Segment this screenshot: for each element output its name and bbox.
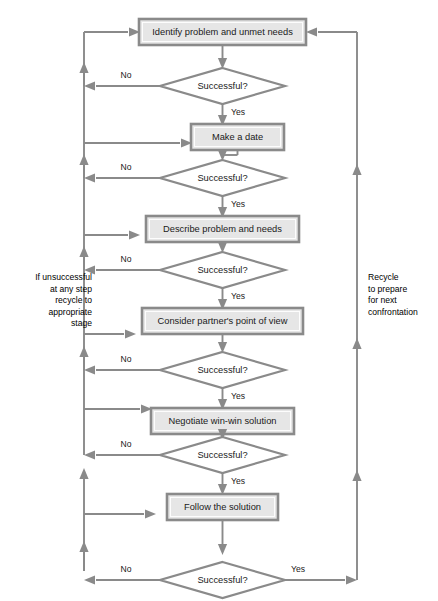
left-note-line-1: If unsuccessful xyxy=(6,272,92,284)
right-note-line-4: confrontation xyxy=(368,307,436,319)
node-label: Follow the solution xyxy=(184,502,261,512)
edge-label-no: No xyxy=(121,254,132,264)
edge-decision5-no: No xyxy=(84,439,160,460)
edge-decision6-no: No xyxy=(84,564,160,585)
node-follow-solution[interactable]: Follow the solution xyxy=(167,494,278,520)
node-label: Consider partner's point of view xyxy=(158,316,288,326)
edge-label-no: No xyxy=(121,354,132,364)
node-label: Negotiate win-win solution xyxy=(168,416,276,426)
node-decision-1[interactable]: Successful? xyxy=(160,68,285,104)
connector-step1-decision1 xyxy=(218,45,227,69)
node-describe-problem[interactable]: Describe problem and needs xyxy=(146,216,299,242)
edge-label-no: No xyxy=(121,564,132,574)
right-recycle-rail xyxy=(285,27,362,584)
node-label: Successful? xyxy=(197,265,247,275)
node-label: Make a date xyxy=(212,132,263,142)
node-identify-problem[interactable]: Identify problem and unmet needs xyxy=(139,19,306,45)
node-decision-2[interactable]: Successful? xyxy=(160,160,285,196)
node-decision-3[interactable]: Successful? xyxy=(160,252,285,288)
node-decision-6[interactable]: Successful? xyxy=(160,562,285,598)
node-label: Successful? xyxy=(197,173,247,183)
edge-label-no: No xyxy=(121,162,132,172)
edge-decision5-yes: Yes xyxy=(218,473,245,495)
edge-decision3-no: No xyxy=(84,254,160,275)
edge-label-yes: Yes xyxy=(231,476,245,486)
node-label: Identify problem and unmet needs xyxy=(152,27,293,37)
edge-label-yes: Yes xyxy=(231,391,245,401)
node-label: Successful? xyxy=(197,450,247,460)
edge-label-yes: Yes xyxy=(291,564,305,574)
edge-label-no: No xyxy=(121,70,132,80)
right-note-line-2: to prepare xyxy=(368,284,436,296)
node-consider-partner-view[interactable]: Consider partner's point of view xyxy=(142,308,303,334)
left-recycle-note: If unsuccessful at any step recycle to a… xyxy=(6,272,92,330)
edge-label-no: No xyxy=(121,439,132,449)
edge-label-yes: Yes xyxy=(231,107,245,117)
node-make-a-date[interactable]: Make a date xyxy=(191,124,284,150)
edge-decision1-yes: Yes xyxy=(218,104,245,126)
edge-decision4-no: No xyxy=(84,354,160,375)
left-note-line-2: at any step xyxy=(6,284,92,296)
flowchart-diagram: Identify problem and unmet needs Success… xyxy=(0,0,438,601)
node-label: Describe problem and needs xyxy=(163,224,282,234)
right-recycle-note: Recycle to prepare for next confrontatio… xyxy=(368,272,436,318)
node-label: Successful? xyxy=(197,575,247,585)
edge-decision6-yes: Yes xyxy=(291,564,305,574)
node-decision-4[interactable]: Successful? xyxy=(160,352,285,388)
right-note-line-1: Recycle xyxy=(368,272,436,284)
left-note-line-3: recycle to xyxy=(6,295,92,307)
edge-decision2-yes: Yes xyxy=(218,196,245,218)
node-label: Successful? xyxy=(197,81,247,91)
edge-decision1-no: No xyxy=(84,70,160,91)
left-note-line-5: stage xyxy=(6,318,92,330)
node-decision-5[interactable]: Successful? xyxy=(160,437,285,473)
node-label: Successful? xyxy=(197,365,247,375)
left-note-line-4: appropriate xyxy=(6,307,92,319)
edge-decision2-no: No xyxy=(84,162,160,183)
edge-label-yes: Yes xyxy=(231,199,245,209)
connector-step4-decision4 xyxy=(218,334,227,353)
edge-label-yes: Yes xyxy=(231,291,245,301)
left-recycle-rail xyxy=(79,27,192,571)
right-note-line-3: for next xyxy=(368,295,436,307)
connector-step6-decision6 xyxy=(218,520,227,555)
